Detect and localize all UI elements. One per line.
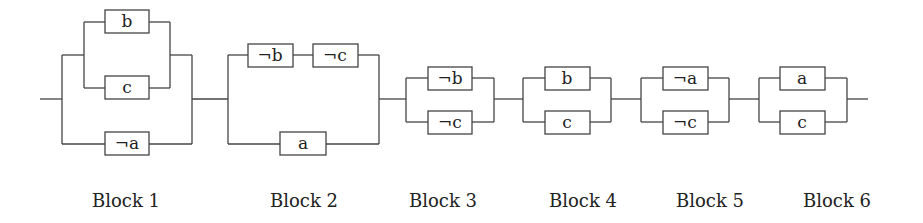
literal-text: a xyxy=(298,133,308,153)
block-label: Block 1 xyxy=(92,190,160,211)
literal-text: c xyxy=(797,112,807,132)
literal-text: c xyxy=(562,112,572,132)
block-4: b c Block 4 xyxy=(523,67,617,211)
block-label: Block 4 xyxy=(549,190,617,211)
block-label: Block 2 xyxy=(270,190,338,211)
circuit-diagram: b c ¬a Block 1 ¬b ¬c a Bloc xyxy=(0,0,923,223)
literal-text: b xyxy=(562,68,573,88)
literal-text: ¬a xyxy=(115,133,139,153)
literal-text: b xyxy=(122,11,133,31)
block-label: Block 5 xyxy=(676,190,744,211)
literal-text: ¬c xyxy=(673,112,697,132)
literal-box-not-c: ¬c xyxy=(313,44,358,67)
literal-text: ¬b xyxy=(257,45,282,65)
literal-text: ¬c xyxy=(438,112,462,132)
literal-box-b: b xyxy=(545,67,590,90)
block-label: Block 6 xyxy=(803,190,871,211)
literal-text: a xyxy=(797,68,807,88)
block-3: ¬b ¬c Block 3 xyxy=(406,67,494,211)
block-label: Block 3 xyxy=(409,190,477,211)
block-2: ¬b ¬c a Block 2 xyxy=(228,44,379,211)
literal-text: ¬b xyxy=(437,68,462,88)
literal-box-not-a: ¬a xyxy=(105,132,149,155)
block-6: a c Block 6 xyxy=(759,67,871,211)
literal-box-not-b: ¬b xyxy=(428,67,472,90)
literal-box-not-c: ¬c xyxy=(428,111,472,134)
literal-text: ¬c xyxy=(323,45,347,65)
literal-box-not-c: ¬c xyxy=(663,111,708,134)
literal-box-b: b xyxy=(105,10,149,33)
literal-box-c: c xyxy=(105,76,149,99)
literal-box-c: c xyxy=(545,111,590,134)
literal-box-not-a: ¬a xyxy=(663,67,708,90)
block-1: b c ¬a Block 1 xyxy=(62,10,192,211)
block-5: ¬a ¬c Block 5 xyxy=(641,67,744,211)
literal-box-a: a xyxy=(780,67,825,90)
literal-text: ¬a xyxy=(673,68,697,88)
literal-box-a: a xyxy=(280,132,326,155)
literal-text: c xyxy=(122,77,132,97)
literal-box-not-b: ¬b xyxy=(248,44,293,67)
literal-box-c: c xyxy=(780,111,825,134)
